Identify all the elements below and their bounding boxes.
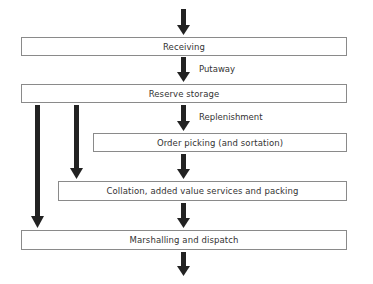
- box-collation-label: Collation, added value services and pack…: [107, 186, 299, 196]
- box-marshalling: Marshalling and dispatch: [21, 230, 347, 250]
- label-putaway: Putaway: [199, 64, 235, 74]
- arrow-reserve-to-collation: [70, 105, 83, 179]
- arrow-replenishment: [177, 105, 190, 131]
- arrow-input-to-receiving: [177, 9, 190, 35]
- box-order-picking-label: Order picking (and sortation): [157, 138, 283, 148]
- box-collation: Collation, added value services and pack…: [58, 181, 347, 201]
- arrow-putaway: [177, 57, 190, 82]
- box-receiving: Receiving: [21, 37, 347, 56]
- arrow-collation-to-marshalling: [177, 203, 190, 228]
- arrow-reserve-to-marshalling: [31, 105, 44, 228]
- arrow-picking-to-collation: [177, 154, 190, 179]
- box-order-picking: Order picking (and sortation): [93, 133, 347, 152]
- label-replenishment: Replenishment: [199, 112, 263, 122]
- box-reserve-storage: Reserve storage: [21, 84, 347, 103]
- arrow-output: [177, 252, 190, 276]
- box-receiving-label: Receiving: [163, 42, 205, 52]
- box-marshalling-label: Marshalling and dispatch: [130, 235, 239, 245]
- box-reserve-storage-label: Reserve storage: [149, 89, 220, 99]
